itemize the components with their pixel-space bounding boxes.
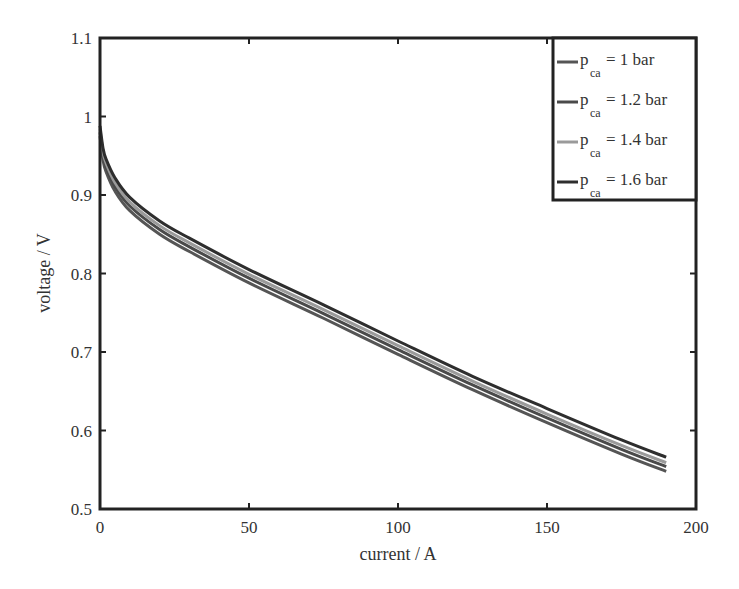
y-axis-label: voltage / V xyxy=(34,233,54,313)
svg-text:= 1.6 bar: = 1.6 bar xyxy=(606,170,667,189)
svg-text:ca: ca xyxy=(590,186,601,200)
y-tick-label: 0.6 xyxy=(71,422,92,441)
y-tick-label: 0.5 xyxy=(71,500,92,519)
x-tick-label: 200 xyxy=(683,518,709,537)
y-tick-label: 0.8 xyxy=(71,265,92,284)
x-tick-label: 100 xyxy=(385,518,411,537)
svg-text:= 1.2 bar: = 1.2 bar xyxy=(606,90,667,109)
x-tick-label: 0 xyxy=(96,518,105,537)
legend-label: p xyxy=(580,130,589,149)
svg-text:ca: ca xyxy=(590,66,601,80)
legend-label: p xyxy=(580,170,589,189)
x-axis-label: current / A xyxy=(360,544,437,564)
x-tick-label: 150 xyxy=(534,518,560,537)
legend-label: p xyxy=(580,90,589,109)
y-tick-label: 1.1 xyxy=(71,29,92,48)
svg-text:= 1 bar: = 1 bar xyxy=(606,50,655,69)
y-tick-label: 0.9 xyxy=(71,186,92,205)
legend: pca = 1 barpca = 1.2 barpca = 1.4 barpca… xyxy=(553,38,696,200)
legend-label: p xyxy=(580,50,589,69)
voltage-current-chart: 050100150200 0.50.60.70.80.911.1 current… xyxy=(0,0,739,589)
svg-text:ca: ca xyxy=(590,146,601,160)
y-tick-label: 0.7 xyxy=(71,343,93,362)
x-tick-label: 50 xyxy=(241,518,258,537)
svg-text:= 1.4 bar: = 1.4 bar xyxy=(606,130,667,149)
y-tick-label: 1 xyxy=(84,108,93,127)
svg-text:ca: ca xyxy=(590,106,601,120)
